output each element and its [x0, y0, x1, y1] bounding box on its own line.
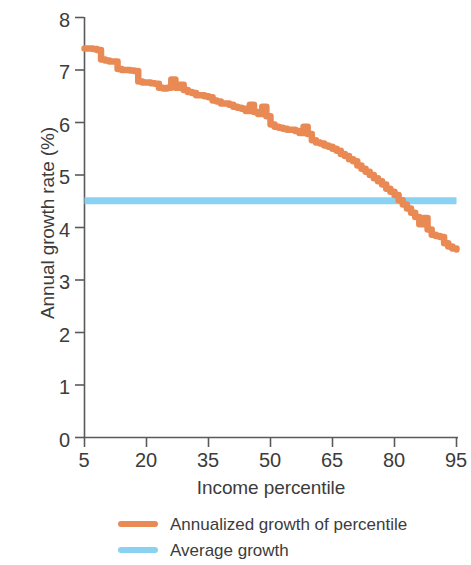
y-tick-marks: [75, 18, 84, 438]
legend-label-average-growth: Average growth: [170, 542, 289, 559]
legend-swatch-orange: [118, 521, 158, 527]
legend-label-annualized-growth: Annualized growth of percentile: [170, 516, 407, 533]
legend-item-annualized-growth: Annualized growth of percentile: [118, 511, 458, 537]
x-tick-marks: [85, 437, 457, 447]
legend-swatch-blue: [118, 547, 158, 553]
series-annualized-growth: [85, 48, 457, 249]
chart-legend: Annualized growth of percentile Average …: [118, 511, 458, 563]
legend-item-average-growth: Average growth: [118, 537, 458, 563]
